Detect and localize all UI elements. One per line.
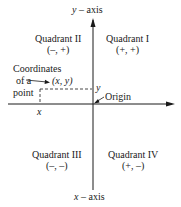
quadrant-iv-signs: (+, –) <box>108 160 158 171</box>
caption-line-3: point <box>13 87 61 99</box>
origin-pointer-arrow-icon <box>94 99 100 104</box>
quadrant-iv-name: Quadrant IV <box>108 149 158 160</box>
quadrant-i: Quadrant I (+, +) <box>106 33 149 55</box>
caption-line-1: Coordinates <box>13 63 61 75</box>
quadrant-iii: Quadrant III (–, –) <box>32 149 82 171</box>
quadrant-ii: Quadrant II (–, +) <box>35 33 81 55</box>
quadrant-iii-name: Quadrant III <box>32 149 82 160</box>
quadrant-i-signs: (+, +) <box>106 44 149 55</box>
x-axis-var: x <box>74 191 78 202</box>
y-axis-arrow-icon <box>91 18 96 27</box>
origin-label: Origin <box>105 91 131 102</box>
y-axis-var: y <box>72 4 76 15</box>
point-coordinates: (x, y) <box>52 75 73 86</box>
y-tick-label: y <box>96 82 100 93</box>
x-axis-label: x – axis <box>74 191 105 202</box>
y-axis-label: y – axis <box>72 4 103 15</box>
axes-drawing <box>0 0 181 207</box>
quadrant-iv: Quadrant IV (+, –) <box>108 149 158 171</box>
x-axis-text: – axis <box>81 191 105 202</box>
x-tick-label: x <box>37 106 41 117</box>
quadrant-i-name: Quadrant I <box>106 33 149 44</box>
x-axis-arrow-icon <box>166 102 175 107</box>
quadrant-iii-signs: (–, –) <box>32 160 82 171</box>
quadrant-ii-name: Quadrant II <box>35 33 81 44</box>
quadrant-ii-signs: (–, +) <box>35 44 81 55</box>
y-axis-text: – axis <box>79 4 103 15</box>
